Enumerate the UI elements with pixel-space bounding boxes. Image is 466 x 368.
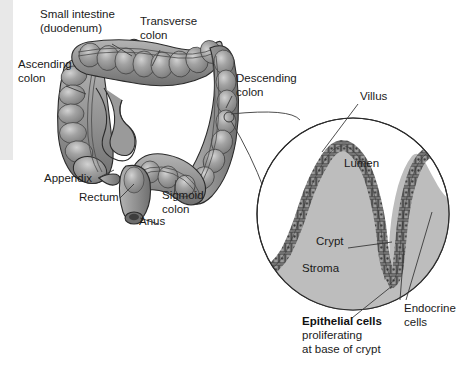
label-descending-colon-line1: Descending — [236, 72, 297, 84]
label-appendix: Appendix — [44, 172, 92, 184]
label-descending-colon-line2: colon — [236, 86, 264, 98]
figure-canvas: Small intestine (duodenum) Transverse co… — [0, 0, 466, 368]
label-endocrine-cells-line2: cells — [404, 316, 427, 328]
label-crypt: Crypt — [316, 235, 344, 247]
label-small-intestine-line1: Small intestine — [40, 8, 115, 20]
label-sigmoid-colon-line1: Sigmoid — [162, 189, 204, 201]
label-lumen: Lumen — [344, 157, 379, 169]
callout-line-3: at base of crypt — [302, 343, 381, 355]
label-sigmoid-colon-line2: colon — [162, 203, 190, 215]
label-stroma: Stroma — [302, 262, 340, 274]
label-transverse-colon-line1: Transverse — [140, 15, 197, 27]
label-ascending-colon-line1: Ascending — [18, 58, 72, 70]
label-small-intestine-line2: (duodenum) — [40, 22, 102, 34]
label-ascending-colon-line2: colon — [18, 72, 46, 84]
label-anus: Anus — [139, 215, 165, 227]
callout-line-2: proliferating — [302, 329, 362, 341]
callout-bold-line: Epithelial cells — [302, 315, 382, 327]
anatomical-figure: Small intestine (duodenum) Transverse co… — [0, 0, 466, 368]
epithelial-cells-callout: Epithelial cells proliferating at base o… — [302, 315, 382, 355]
villus-detail-circle — [257, 118, 456, 330]
label-rectum: Rectum — [79, 191, 119, 203]
page-margin-strip — [0, 0, 13, 160]
label-endocrine-cells-line1: Endocrine — [404, 302, 456, 314]
label-villus: Villus — [360, 90, 388, 102]
label-transverse-colon-line2: colon — [140, 29, 168, 41]
